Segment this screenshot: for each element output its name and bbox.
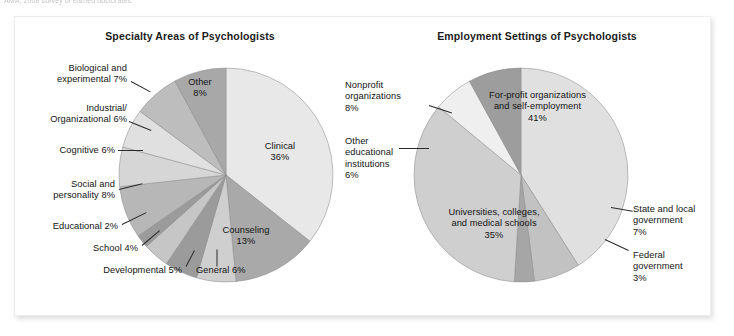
pie-label-industrial: Industrial/ Organizational 6% bbox=[0, 103, 127, 126]
pie-label-for-profit: For-profit organizations and self-employ… bbox=[465, 90, 610, 124]
pie-label-state-local: State and local government 7% bbox=[633, 204, 734, 238]
chart-title-employment: Employment Settings of Psychologists bbox=[362, 30, 712, 42]
pie-label-cognitive: Cognitive 6% bbox=[0, 145, 115, 156]
pie-label-other-educational: Other educational institutions 6% bbox=[345, 136, 455, 182]
pie-label-counseling: Counseling 13% bbox=[205, 225, 287, 248]
chart-title-specialty: Specialty Areas of Psychologists bbox=[15, 30, 365, 42]
pie-label-educational: Educational 2% bbox=[0, 221, 118, 232]
pie-label-general: General 6% bbox=[196, 265, 316, 276]
pie-label-social: Social and personality 8% bbox=[0, 179, 115, 202]
pie-label-school: School 4% bbox=[0, 243, 138, 254]
leader-line-other-educational bbox=[399, 148, 429, 149]
pie-label-clinical: Clinical 36% bbox=[245, 141, 315, 164]
pie-label-federal: Federal government 3% bbox=[633, 250, 734, 284]
pie-label-other: Other 8% bbox=[170, 77, 230, 100]
pie-label-developmental: Developmental 5% bbox=[15, 265, 182, 276]
figure-caption-text: AMA, 2008 survey of earned doctorates. bbox=[4, 0, 133, 4]
pie-label-biological: Biological and experimental 7% bbox=[0, 63, 127, 86]
figure-panel: Specialty Areas of Psychologists Employm… bbox=[14, 16, 711, 316]
leader-line-general bbox=[217, 250, 218, 267]
pie-label-universities: Universities, colleges, and medical scho… bbox=[423, 207, 565, 241]
figure-caption-strip: AMA, 2008 survey of earned doctorates. bbox=[0, 0, 734, 14]
leader-line-cognitive bbox=[118, 150, 143, 151]
